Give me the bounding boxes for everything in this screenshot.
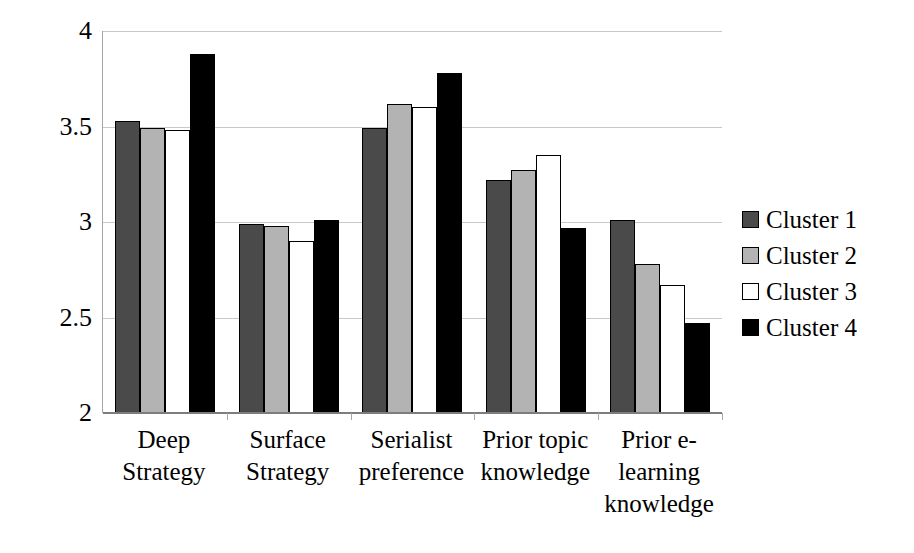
bar [685, 323, 710, 413]
x-axis-tick [351, 413, 352, 420]
x-axis-category-label-line: knowledge [465, 456, 605, 488]
bar [140, 128, 165, 413]
bar-group [351, 31, 475, 413]
y-axis-tick-label: 3 [36, 209, 92, 235]
bar-chart: 22.533.54 DeepStrategySurfaceStrategySer… [0, 0, 914, 553]
bar [660, 285, 685, 413]
legend-item: Cluster 2 [742, 237, 907, 273]
bar-group [474, 31, 598, 413]
x-axis-category-label: Prior topicknowledge [465, 424, 605, 488]
bar [314, 220, 339, 413]
y-axis-tick-label: 3.5 [36, 114, 92, 140]
legend-swatch-icon [742, 319, 759, 336]
y-axis-tick-label: 2.5 [36, 305, 92, 331]
x-axis-category-label-line: Strategy [94, 456, 234, 488]
x-axis-category-label: SurfaceStrategy [218, 424, 358, 488]
bar [511, 170, 536, 413]
x-axis-tick [474, 413, 475, 420]
bar [190, 54, 215, 413]
legend-swatch-icon [742, 283, 759, 300]
y-axis-tick-label: 4 [36, 18, 92, 44]
x-axis-category-label-line: Surface [218, 424, 358, 456]
legend-label: Cluster 4 [766, 315, 857, 340]
x-axis-category-label: Prior e-learningknowledge [589, 424, 729, 520]
legend-item: Cluster 4 [742, 309, 907, 345]
x-axis-category-label-line: Prior topic [465, 424, 605, 456]
x-axis-category-label: Serialistpreference [342, 424, 482, 488]
x-axis-category-label-line: Serialist [342, 424, 482, 456]
x-axis-category-label-line: Strategy [218, 456, 358, 488]
x-axis-category-label-line: preference [342, 456, 482, 488]
bar [115, 121, 140, 413]
bar-group [598, 31, 722, 413]
legend-label: Cluster 1 [766, 207, 857, 232]
bar [610, 220, 635, 413]
plot-area [102, 31, 722, 413]
bar [165, 130, 190, 413]
x-axis-tick [598, 413, 599, 420]
bar [289, 241, 314, 413]
gridline [103, 413, 722, 414]
bar [264, 226, 289, 413]
bar [561, 228, 586, 413]
legend-item: Cluster 3 [742, 273, 907, 309]
bar [239, 224, 264, 413]
legend-label: Cluster 3 [766, 279, 857, 304]
x-axis-category-labels: DeepStrategySurfaceStrategySerialistpref… [102, 424, 721, 549]
x-axis-category-label-line: knowledge [589, 488, 729, 520]
x-axis-baseline [103, 412, 722, 413]
y-axis-tick-label: 2 [36, 400, 92, 426]
bar-group [227, 31, 351, 413]
bar [486, 180, 511, 413]
bar-group [103, 31, 227, 413]
legend-label: Cluster 2 [766, 243, 857, 268]
x-axis-tick [227, 413, 228, 420]
legend: Cluster 1Cluster 2Cluster 3Cluster 4 [742, 201, 907, 345]
bar [635, 264, 660, 413]
bar [536, 155, 561, 413]
legend-item: Cluster 1 [742, 201, 907, 237]
bar [387, 104, 412, 413]
legend-swatch-icon [742, 211, 759, 228]
bar [437, 73, 462, 413]
y-axis-tick-labels: 22.533.54 [28, 0, 92, 553]
bar [412, 107, 437, 413]
bar [362, 128, 387, 413]
x-axis-category-label-line: Prior e- [589, 424, 729, 456]
x-axis-category-label-line: Deep [94, 424, 234, 456]
x-axis-category-label: DeepStrategy [94, 424, 234, 488]
x-axis-category-label-line: learning [589, 456, 729, 488]
legend-swatch-icon [742, 247, 759, 264]
x-axis-tick [722, 413, 723, 420]
